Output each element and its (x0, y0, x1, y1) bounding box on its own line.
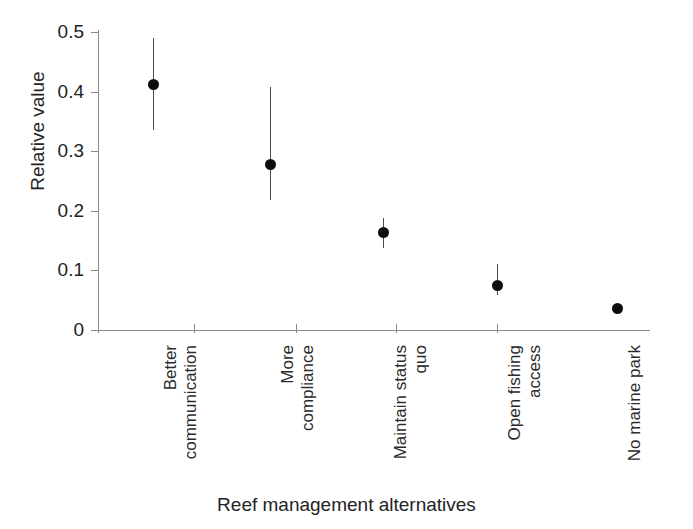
x-tick-mark-4 (497, 324, 498, 333)
x-category-text-2: Maintain status quo (391, 345, 431, 485)
error-bar-1 (270, 87, 271, 200)
data-point-maintain-status-quo (378, 227, 389, 238)
x-axis-title: Reef management alternatives (0, 494, 693, 516)
x-category-text-0: Better communication (161, 345, 201, 485)
data-point-more-compliance (265, 159, 276, 170)
x-category-text-1: More compliance (278, 345, 318, 485)
data-point-no-marine-park (612, 303, 623, 314)
y-tick-mark-1 (91, 270, 99, 271)
x-tick-mark-2 (296, 324, 297, 333)
data-point-open-fishing-access (492, 280, 503, 291)
y-axis-line (98, 30, 99, 331)
x-axis-line (98, 330, 650, 331)
y-tick-mark-2 (91, 211, 99, 212)
x-category-label-more-compliance: More compliance (258, 345, 338, 485)
x-tick-mark-0 (98, 324, 99, 333)
y-tick-label-1: 0.1 (38, 259, 84, 281)
x-tick-mark-3 (396, 324, 397, 333)
x-category-text-4: No marine park (625, 345, 645, 485)
x-category-label-better-communication: Better communication (141, 345, 221, 485)
x-category-label-maintain-status-quo: Maintain status quo (371, 345, 451, 485)
relative-value-dot-plot: 0 0.1 0.2 0.3 0.4 0.5 Better communicati… (0, 0, 693, 529)
y-tick-mark-5 (91, 32, 99, 33)
x-tick-mark-1 (194, 324, 195, 333)
y-tick-mark-3 (91, 151, 99, 152)
y-tick-label-0: 0 (38, 319, 84, 341)
y-tick-mark-4 (91, 92, 99, 93)
x-category-label-no-marine-park: No marine park (605, 345, 665, 485)
x-category-label-open-fishing-access: Open fishing access (485, 345, 565, 485)
x-category-text-3: Open fishing access (505, 345, 545, 485)
y-axis-title: Relative value (27, 31, 49, 231)
data-point-better-communication (148, 79, 159, 90)
